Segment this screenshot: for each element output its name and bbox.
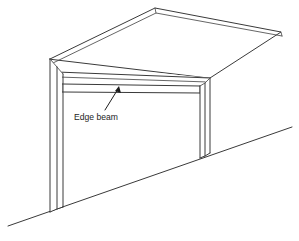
right-column <box>200 78 210 158</box>
edge-beam-member <box>62 84 200 93</box>
roof-thickness-right-tick <box>281 32 282 36</box>
left-column <box>50 59 63 212</box>
left-column-fill <box>50 59 62 212</box>
figure-canvas: Edge beam <box>0 0 299 241</box>
edge-beam-label: Edge beam <box>74 112 118 122</box>
edge-beam-diagram-svg: Edge beam <box>0 0 299 241</box>
